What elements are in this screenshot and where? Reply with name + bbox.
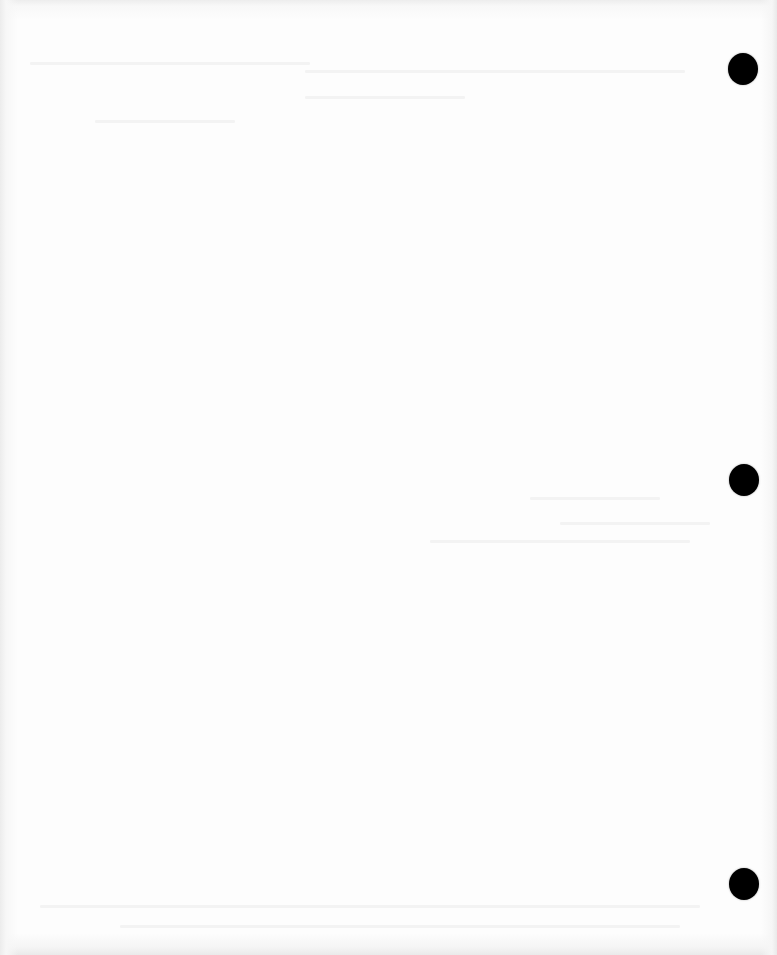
bleed-through-mark (305, 70, 685, 73)
scanned-page (0, 0, 777, 955)
binder-hole-top-icon (728, 53, 758, 85)
bleed-through-mark (430, 540, 690, 543)
bleed-through-mark (30, 62, 310, 65)
binder-hole-bottom-icon (729, 868, 759, 900)
bleed-through-mark (95, 120, 235, 123)
bleed-through-mark (305, 96, 465, 99)
binder-hole-middle-icon (729, 464, 759, 496)
bleed-through-mark (530, 497, 660, 500)
bleed-through-mark (40, 905, 700, 908)
bleed-through-mark (120, 925, 680, 928)
bleed-through-mark (560, 522, 710, 525)
